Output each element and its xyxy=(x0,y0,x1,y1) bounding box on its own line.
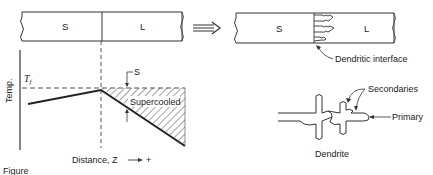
transition-arrow-icon xyxy=(193,22,220,34)
dendrite-drawing xyxy=(278,95,369,140)
secondaries-label: Secondaries xyxy=(368,84,419,94)
dendritic-interface xyxy=(314,13,334,43)
supercooling-marker-label: S xyxy=(134,67,140,77)
dendrite-caption: Dendrite xyxy=(315,149,349,159)
left-bar-liquid-label: L xyxy=(140,21,145,32)
tf-label: Tf xyxy=(24,73,33,86)
solidification-diagram: S L Temp. Tf Supercooled S Distance, Z +… xyxy=(0,0,433,175)
dendritic-interface-label: Dendritic interface xyxy=(335,54,408,64)
interface-pointer xyxy=(318,46,333,59)
supercooled-label: Supercooled xyxy=(130,97,181,107)
right-bar-solid-label: S xyxy=(276,23,282,34)
right-bar xyxy=(235,13,396,43)
x-axis-direction: + xyxy=(146,155,151,165)
left-bar-solid-label: S xyxy=(62,21,68,32)
primary-label: Primary xyxy=(392,112,423,122)
figure-caption-fragment: Figure xyxy=(3,166,29,175)
left-bar xyxy=(21,12,184,41)
x-direction-arrow-icon xyxy=(128,158,143,162)
x-axis-label: Distance, Z xyxy=(72,155,118,165)
right-bar-liquid-label: L xyxy=(364,23,369,34)
y-axis-label: Temp. xyxy=(4,78,14,103)
